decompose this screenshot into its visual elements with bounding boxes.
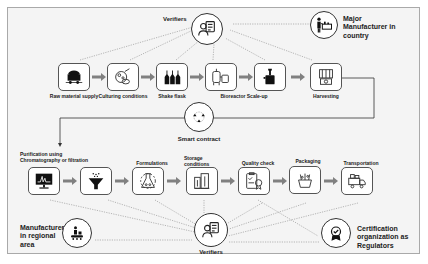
- label-formulations: Formulations: [122, 161, 182, 167]
- node-raw-material: [58, 63, 90, 91]
- arrow-icon: [167, 177, 181, 185]
- node-shake-flask: [156, 63, 188, 91]
- storage-buildings-icon: [191, 170, 213, 192]
- manufacturer-presenter-icon: [314, 15, 334, 35]
- certification-line1: Certification: [357, 225, 408, 233]
- arrow-icon: [63, 177, 77, 185]
- node-filtration: [80, 167, 112, 195]
- label-storage: Storage conditions: [184, 156, 209, 168]
- arrow-icon: [115, 177, 129, 185]
- arrow-icon: [239, 73, 253, 81]
- arrow-icon: [92, 73, 106, 81]
- funnel-filter-icon: [85, 170, 107, 192]
- major-manufacturer-line2: Manufacturer in: [343, 23, 396, 31]
- network-nodes-icon: [189, 107, 209, 127]
- node-storage: [186, 167, 218, 195]
- node-transportation: [341, 167, 373, 195]
- culture-cells-icon: [112, 66, 134, 88]
- label-transportation: Transportation: [331, 161, 391, 167]
- regional-manufacturer-line3: area: [20, 241, 64, 249]
- node-culturing: [107, 63, 139, 91]
- flasks-icon: [161, 66, 183, 88]
- verifier-person-icon: [200, 219, 222, 241]
- lab-flask-icon: [137, 170, 159, 192]
- verifiers-bottom-node: [194, 213, 228, 247]
- regional-manufacturer-line2: in regional: [20, 232, 64, 240]
- node-purification: [28, 167, 60, 195]
- arrow-icon: [141, 73, 155, 81]
- truck-icon: [346, 170, 368, 192]
- conveyor-worker-icon: [68, 224, 86, 242]
- verifiers-top-node: [191, 13, 223, 45]
- certification-label: Certification organization as Regulators: [357, 225, 408, 250]
- node-bioreactor: [205, 63, 237, 91]
- harvesting-machine-icon: [315, 66, 337, 88]
- packaging-icon: [294, 169, 316, 191]
- label-purification: Purification using Chromatography or fil…: [20, 152, 88, 164]
- node-formulations: [132, 167, 164, 195]
- label-smart-contract: Smart contract: [169, 136, 229, 143]
- label-packaging: Packaging: [278, 159, 338, 165]
- label-purification-line2: Chromatography or filtration: [20, 158, 88, 164]
- node-quality-check: [238, 167, 270, 195]
- label-bioreactor: Bioreactor Scale-up: [214, 94, 274, 100]
- verifiers-top-label: Verifiers: [163, 16, 187, 23]
- node-harvesting: [310, 63, 342, 91]
- mine-cart-icon: [63, 66, 85, 88]
- bioreactor-icon: [210, 66, 232, 88]
- major-manufacturer-node: [310, 11, 338, 39]
- regional-manufacturer-line1: Manufacturer: [20, 224, 64, 232]
- certification-line2: organization as: [357, 233, 408, 241]
- arrow-icon: [291, 73, 305, 81]
- verifier-person-icon: [196, 18, 218, 40]
- label-harvesting: Harvesting: [296, 94, 356, 100]
- quality-certificate-icon: [243, 170, 265, 192]
- major-manufacturer-line3: country: [343, 32, 396, 40]
- arrow-icon: [221, 177, 235, 185]
- label-shake-flask: Shake flask: [142, 94, 202, 100]
- node-packaging: [289, 166, 321, 194]
- chromatography-monitor-icon: [33, 170, 55, 192]
- major-manufacturer-label: Major Manufacturer in country: [343, 15, 396, 40]
- fermenter-tank-icon: [259, 66, 281, 88]
- regional-manufacturer-node: [62, 218, 92, 248]
- award-badge-icon: [327, 224, 345, 242]
- node-fermenter: [254, 63, 286, 91]
- certification-line3: Regulators: [357, 242, 408, 250]
- regional-manufacturer-label: Manufacturer in regional area: [20, 224, 64, 249]
- arrow-icon: [273, 177, 287, 185]
- major-manufacturer-line1: Major: [343, 15, 396, 23]
- certification-node: [321, 218, 351, 248]
- arrow-icon: [324, 177, 338, 185]
- smart-contract-node: [184, 102, 214, 132]
- verifiers-bottom-label: Verifiers: [181, 249, 241, 256]
- arrow-icon: [190, 73, 204, 81]
